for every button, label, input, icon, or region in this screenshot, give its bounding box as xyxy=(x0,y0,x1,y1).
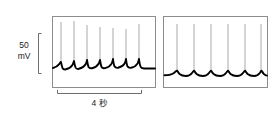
electrophysiology-figure: 50 mV xyxy=(0,0,279,115)
voltage-scale-value: 50 xyxy=(19,40,29,50)
recording-traces-svg: 50 mV xyxy=(0,0,279,115)
voltage-scale-unit: mV xyxy=(18,51,31,61)
time-scale-label: 4 秒 xyxy=(91,98,107,108)
figure-background xyxy=(0,0,279,115)
